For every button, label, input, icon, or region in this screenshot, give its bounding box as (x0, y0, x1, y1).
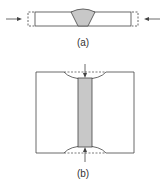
right-arrow-icon (144, 17, 160, 21)
weld-strip (78, 78, 92, 147)
left-original-edge-dashed (28, 12, 34, 26)
left-arrow-icon (6, 17, 22, 21)
right-original-edge-dashed (132, 12, 138, 26)
panel-a-drawing (6, 9, 160, 26)
panel-a-label: (a) (68, 37, 98, 48)
weld-shrinkage-diagram (0, 0, 166, 184)
panel-b-drawing (36, 64, 134, 162)
top-arrow-icon (83, 64, 87, 78)
panel-b-label: (b) (68, 168, 98, 179)
bottom-arrow-icon (83, 147, 87, 162)
